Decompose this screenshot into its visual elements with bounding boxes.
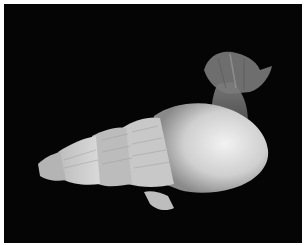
photo-frame bbox=[4, 4, 302, 243]
photo bbox=[4, 4, 302, 243]
shell bbox=[38, 103, 268, 210]
